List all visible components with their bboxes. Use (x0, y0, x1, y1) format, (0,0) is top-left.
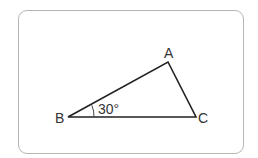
triangle-abc (68, 62, 196, 117)
vertex-label-b: B (55, 111, 64, 125)
angle-b-arc (92, 105, 94, 117)
vertex-label-a: A (164, 46, 173, 60)
triangle-figure (0, 0, 258, 158)
angle-label: 30° (98, 102, 119, 116)
vertex-label-c: C (198, 111, 208, 125)
